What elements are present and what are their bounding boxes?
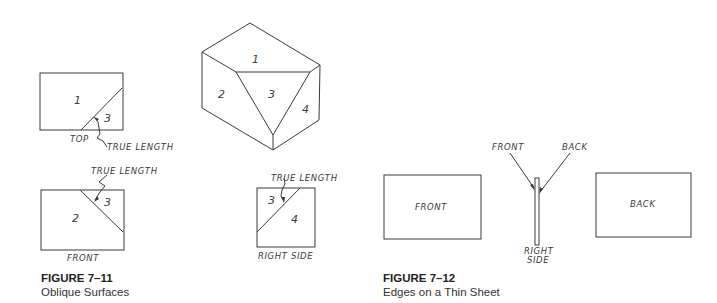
arrowhead-icon bbox=[281, 197, 285, 203]
face-label-2: 2 bbox=[72, 212, 79, 225]
arrowhead-icon bbox=[539, 187, 543, 194]
front-view-outline bbox=[41, 190, 124, 250]
back-leader-line bbox=[540, 153, 570, 192]
figure-title: Edges on a Thin Sheet bbox=[383, 285, 500, 299]
face-label-3: 3 bbox=[104, 112, 111, 125]
isometric-edge bbox=[236, 72, 273, 135]
right-side-label-line2: SIDE bbox=[527, 255, 549, 265]
face-label-4: 4 bbox=[291, 213, 298, 226]
face-label-2: 2 bbox=[218, 88, 225, 101]
face-label-3: 3 bbox=[268, 194, 275, 207]
face-label-3: 3 bbox=[104, 196, 111, 209]
front-view-label: FRONT bbox=[67, 253, 99, 263]
back-view-label: BACK bbox=[630, 199, 656, 209]
thin-sheet-back-view: BACK bbox=[596, 173, 691, 237]
right-side-view-label: RIGHT SIDE bbox=[258, 251, 313, 261]
right-side-view: 3 4 RIGHT SIDE TRUE LENGTH bbox=[257, 173, 338, 261]
face-label-1: 1 bbox=[252, 53, 259, 66]
isometric-outline bbox=[202, 23, 320, 150]
figure-title: Oblique Surfaces bbox=[41, 285, 129, 299]
thin-sheet-right-side-view: FRONT BACK RIGHT SIDE bbox=[492, 142, 588, 265]
top-view-label: TOP bbox=[70, 134, 89, 144]
figure-number: FIGURE 7–11 bbox=[41, 271, 129, 285]
front-leader-label: FRONT bbox=[492, 142, 524, 152]
top-view-edge bbox=[81, 88, 122, 130]
face-label-3: 3 bbox=[268, 88, 275, 101]
front-view-label: FRONT bbox=[415, 202, 447, 212]
drawing-canvas: 1 2 3 4 1 3 TOP TRUE LENGTH 2 3 FRONT TR… bbox=[0, 0, 717, 303]
thin-sheet-front-view: FRONT bbox=[384, 175, 481, 239]
figure-7-12-caption: FIGURE 7–12 Edges on a Thin Sheet bbox=[383, 271, 500, 299]
isometric-edge bbox=[310, 65, 320, 72]
right-side-view-outline bbox=[257, 188, 315, 247]
face-label-1: 1 bbox=[74, 94, 81, 107]
back-leader-label: BACK bbox=[562, 142, 588, 152]
isometric-block: 1 2 3 4 bbox=[202, 23, 320, 150]
true-length-annotation: TRUE LENGTH bbox=[271, 173, 338, 183]
sheet-edge-outline bbox=[535, 178, 539, 245]
figure-7-11-caption: FIGURE 7–11 Oblique Surfaces bbox=[41, 271, 129, 299]
isometric-edge bbox=[202, 52, 236, 72]
true-length-annotation: TRUE LENGTH bbox=[107, 142, 174, 152]
face-label-4: 4 bbox=[302, 103, 309, 116]
top-view: 1 3 TOP TRUE LENGTH bbox=[40, 73, 174, 152]
front-leader-line bbox=[510, 153, 534, 188]
figure-number: FIGURE 7–12 bbox=[383, 271, 500, 285]
front-view-edge bbox=[80, 190, 123, 232]
front-view: 2 3 FRONT TRUE LENGTH bbox=[41, 166, 158, 263]
true-length-annotation: TRUE LENGTH bbox=[91, 166, 158, 176]
